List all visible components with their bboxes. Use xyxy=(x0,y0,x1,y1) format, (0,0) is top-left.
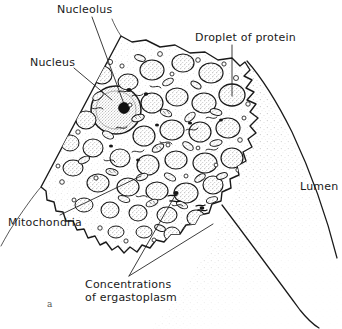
label-concentrations-of-ergastoplasm: Concentrations of ergastoplasm xyxy=(85,278,177,304)
label-droplet-of-protein: Droplet of protein xyxy=(195,31,296,44)
cell-diagram-figure: Nucleolus Nucleus Droplet of protein Lum… xyxy=(0,0,342,329)
label-nucleus: Nucleus xyxy=(30,56,75,69)
label-mitochondria: Mitochondria xyxy=(8,216,82,229)
label-nucleolus: Nucleolus xyxy=(57,3,112,16)
figure-part-marker: a xyxy=(47,299,52,309)
label-lumen: Lumen xyxy=(300,180,338,193)
